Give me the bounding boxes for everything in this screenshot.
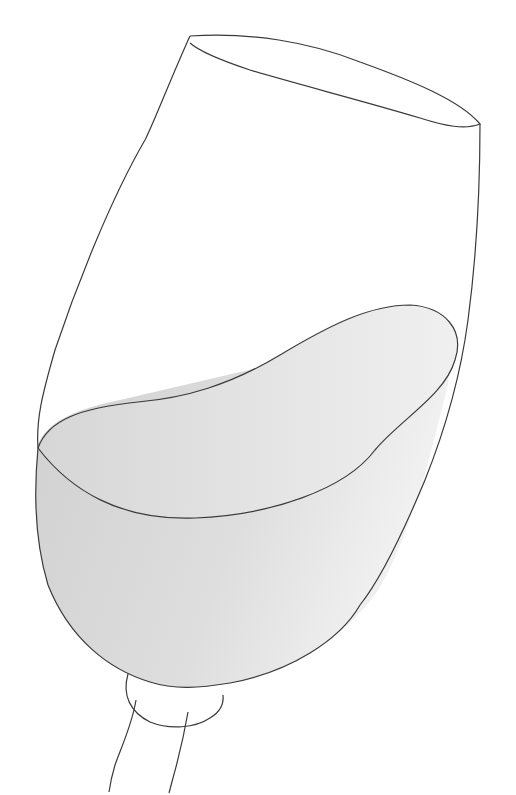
stem-left-line <box>109 700 136 792</box>
glass-rim <box>190 35 480 127</box>
wine-glass-illustration <box>0 0 516 795</box>
stem-right-line <box>169 712 188 793</box>
